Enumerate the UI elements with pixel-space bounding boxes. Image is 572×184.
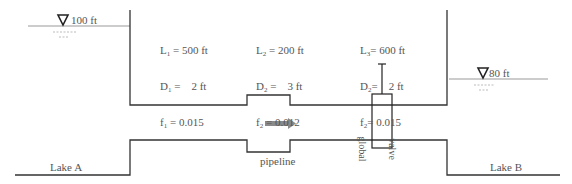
- length-symbol: L: [360, 44, 367, 56]
- valve-label-line-2: valve: [387, 124, 397, 174]
- segment-1-params: L1 = 500 ft D1 = 2 ft f1 = 0.015: [160, 20, 208, 140]
- lake-a-water-dashes: [53, 32, 76, 37]
- diameter-value: = 3 ft: [267, 80, 302, 92]
- diameter-symbol: D: [360, 80, 368, 92]
- diameter-value: = 2 ft: [371, 80, 403, 92]
- lake-a-label: Lake A: [50, 161, 82, 173]
- length-value: = 500 ft: [170, 44, 208, 56]
- pipeline-label: pipeline: [260, 155, 295, 167]
- friction-value: = 0.015: [167, 116, 203, 128]
- friction-value: = 0.012: [263, 116, 299, 128]
- valve-label-line-1: global: [357, 124, 367, 174]
- segment-2-params: L2 = 200 ft D2 = 3 ft f2 = 0.012: [256, 20, 304, 140]
- lake-b-label: Lake B: [490, 161, 522, 173]
- lake-b-water-dashes: [474, 85, 495, 90]
- lake-b-elevation: 80 ft: [489, 67, 509, 79]
- lake-a-level-triangle-icon: [58, 15, 68, 25]
- length-symbol: L: [256, 44, 263, 56]
- diameter-value: = 2 ft: [171, 80, 206, 92]
- length-value: = 600 ft: [370, 44, 405, 56]
- valve-label: valve global: [347, 124, 417, 174]
- length-value: = 200 ft: [266, 44, 304, 56]
- length-symbol: L: [160, 44, 167, 56]
- diameter-symbol: D: [256, 80, 264, 92]
- segment-3-params: L3= 600 ft D2= 2 ft f2= 0.015: [360, 20, 405, 140]
- diameter-symbol: D: [160, 80, 168, 92]
- lake-b-level-triangle-icon: [478, 68, 488, 78]
- lake-a-elevation: 100 ft: [71, 14, 97, 26]
